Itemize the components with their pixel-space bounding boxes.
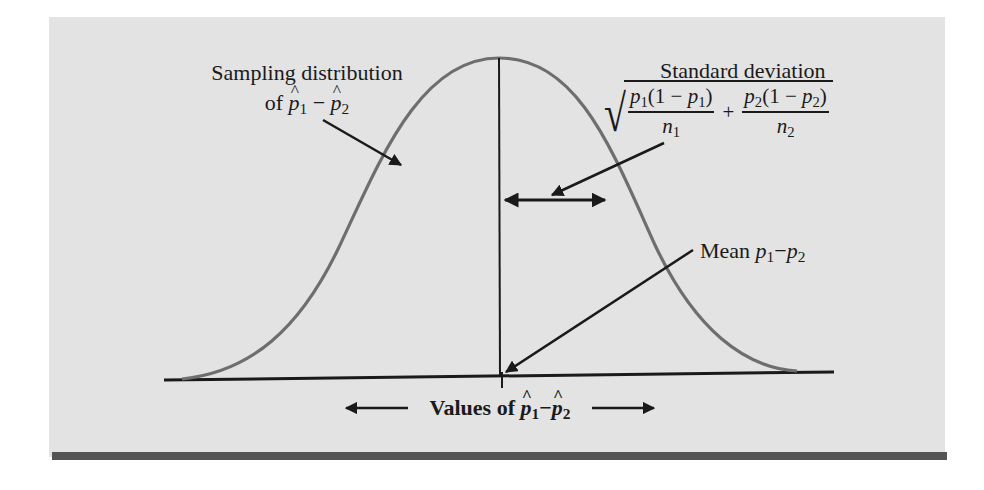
sampling-distribution-expression: of p1 − p2 xyxy=(211,92,402,116)
std-dev-title: Standard deviation xyxy=(660,60,826,82)
sampling-distribution-title: Sampling distribution xyxy=(211,62,402,84)
mean-pointer-arrow xyxy=(506,250,693,372)
mean-vertical-line xyxy=(499,58,500,376)
mean-label: Mean p1−p2 xyxy=(700,240,805,264)
std-dev-pointer-arrow xyxy=(552,143,664,195)
fraction-term-1: p1(1 − p1) n1 xyxy=(628,86,715,140)
fraction-term-2: p2(1 − p2) n2 xyxy=(742,86,829,140)
sampling-distribution-label: Sampling distribution of p1 − p2 xyxy=(211,62,402,116)
sqrt-symbol: √ xyxy=(604,88,626,140)
x-axis-label: Values of p1−p2 xyxy=(430,397,571,421)
std-dev-formula: √ p1(1 − p1) n1 + p2(1 − p2) n2 xyxy=(604,80,833,140)
